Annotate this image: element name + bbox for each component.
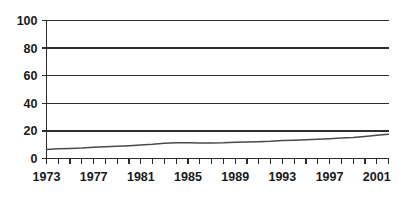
x-tick-label-1997: 1997 bbox=[316, 170, 344, 184]
x-tick-label-1985: 1985 bbox=[174, 170, 202, 184]
x-tick-label-1977: 1977 bbox=[80, 170, 108, 184]
x-tick-label-1981: 1981 bbox=[127, 170, 155, 184]
y-tick-label-80: 80 bbox=[24, 42, 38, 56]
x-tick-label-1993: 1993 bbox=[268, 170, 296, 184]
x-tick-label-1989: 1989 bbox=[221, 170, 249, 184]
series-line-1 bbox=[47, 134, 389, 149]
x-tick-label-2001: 2001 bbox=[363, 170, 391, 184]
x-tick-label-1973: 1973 bbox=[33, 170, 61, 184]
y-tick-label-0: 0 bbox=[31, 152, 38, 166]
line-chart: 0204060801001973197719811985198919931997… bbox=[0, 0, 407, 199]
y-tick-label-40: 40 bbox=[24, 97, 38, 111]
y-tick-label-20: 20 bbox=[24, 124, 38, 138]
y-tick-label-100: 100 bbox=[17, 14, 38, 28]
chart-canvas: 0204060801001973197719811985198919931997… bbox=[0, 0, 407, 199]
y-tick-label-60: 60 bbox=[24, 69, 38, 83]
